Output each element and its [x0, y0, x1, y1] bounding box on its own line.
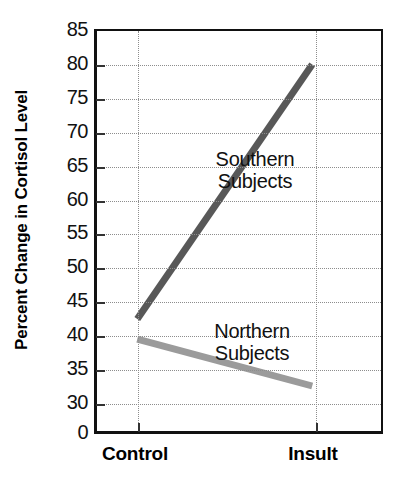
y-axis-tick-label: 85 [42, 19, 88, 39]
cortisol-line-chart: Percent Change in Cortisol Level 8580757… [0, 0, 405, 499]
vertical-gridline [316, 31, 317, 431]
series-label-southern-line2: Subjects [216, 170, 295, 192]
y-axis-title: Percent Change in Cortisol Level [0, 0, 44, 440]
horizontal-gridline [97, 65, 381, 66]
y-axis-tick-label: 45 [42, 290, 88, 310]
y-axis-tick-mark [96, 370, 105, 372]
y-axis-origin-label: 0 [42, 422, 88, 442]
series-label-northern: Northern Subjects [214, 320, 289, 365]
x-axis-tick-control: Control [102, 443, 168, 465]
y-axis-tick-mark [96, 302, 105, 304]
y-axis-tick-label: 35 [42, 358, 88, 378]
y-axis-tick-label: 80 [42, 53, 88, 73]
y-axis-tick-label: 70 [42, 121, 88, 141]
y-axis-tick-label: 40 [42, 324, 88, 344]
y-axis-tick-label: 55 [42, 222, 88, 242]
horizontal-gridline [97, 234, 381, 235]
y-axis-tick-mark [96, 65, 105, 67]
vertical-gridline [138, 31, 139, 431]
y-axis-tick-label: 65 [42, 155, 88, 175]
y-axis-tick-mark [96, 336, 105, 338]
y-axis-tick-label: 30 [42, 392, 88, 412]
y-axis-tick-mark [96, 99, 105, 101]
series-label-southern-line1: Southern [216, 148, 295, 170]
horizontal-gridline [97, 201, 381, 202]
y-axis-tick-labels: 8580757065605550454035300 [42, 0, 88, 499]
x-axis-tick-mark [138, 423, 140, 432]
horizontal-gridline [97, 302, 381, 303]
y-axis-tick-mark [96, 404, 105, 406]
horizontal-gridline [97, 99, 381, 100]
y-axis-title-text: Percent Change in Cortisol Level [12, 90, 32, 350]
y-axis-tick-label: 50 [42, 256, 88, 276]
horizontal-gridline [97, 133, 381, 134]
y-axis-tick-mark [96, 133, 105, 135]
horizontal-gridline [97, 370, 381, 371]
y-axis-tick-mark [96, 268, 105, 270]
plot-area [94, 29, 383, 434]
horizontal-gridline [97, 404, 381, 405]
y-axis-tick-mark [96, 201, 105, 203]
horizontal-gridline [97, 268, 381, 269]
series-label-northern-line1: Northern [214, 320, 289, 342]
series-label-southern: Southern Subjects [216, 148, 295, 193]
y-axis-tick-label: 60 [42, 189, 88, 209]
y-axis-tick-mark [96, 234, 105, 236]
series-label-northern-line2: Subjects [214, 342, 289, 364]
x-axis-tick-mark [316, 423, 318, 432]
y-axis-tick-mark [96, 167, 105, 169]
y-axis-tick-label: 75 [42, 87, 88, 107]
x-axis-tick-insult: Insult [288, 443, 337, 465]
